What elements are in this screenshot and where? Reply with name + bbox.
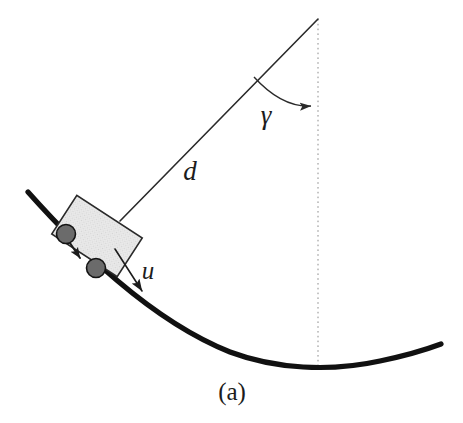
label-input-u: u (142, 257, 155, 284)
label-angle-gamma: γ (261, 100, 273, 130)
label-distance-d: d (183, 156, 197, 186)
figure-canvas: d γ u (a) (0, 0, 463, 423)
figure-container: d γ u (a) (0, 0, 463, 423)
wheel-front (87, 259, 106, 278)
figure-caption: (a) (218, 378, 246, 406)
cable-line-d (120, 19, 318, 221)
wheel-rear (57, 225, 76, 244)
